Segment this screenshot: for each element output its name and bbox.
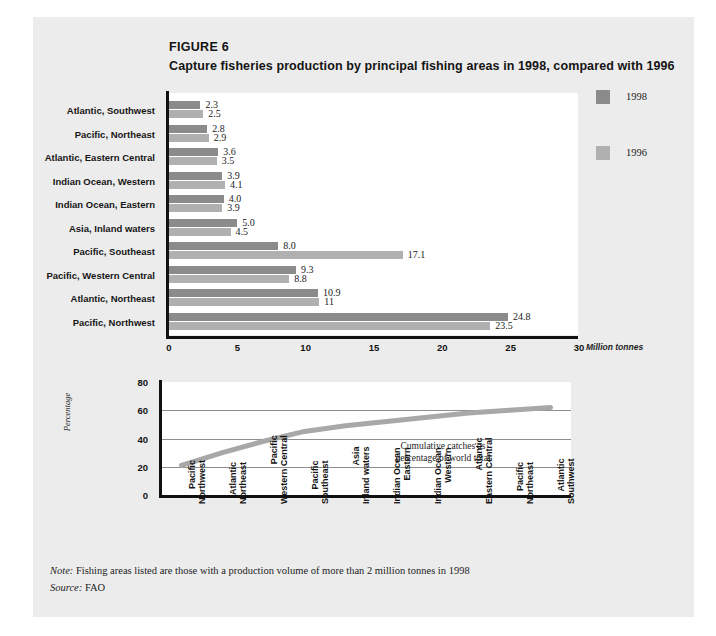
gridline (161, 410, 571, 411)
bar-value-label: 23.5 (495, 320, 513, 331)
bar-category-label: Indian Ocean, Western (53, 176, 155, 187)
bar-1998 (169, 313, 508, 321)
line-y-axis-line (159, 380, 162, 498)
line-x-tick-label: PacificNortheast (515, 462, 535, 504)
bar-category-label: Pacific, Southeast (73, 246, 155, 257)
bar-value-label: 2.9 (214, 132, 227, 143)
legend-swatch-1996 (596, 146, 610, 160)
line-x-tick-label: AtlanticSouthwest (556, 458, 576, 504)
bar-1998 (169, 148, 218, 156)
bar-value-label: 24.8 (513, 311, 531, 322)
line-chart: 020406080 Percentage Cumulative catches … (33, 347, 694, 577)
bar-category-label: Pacific, Northeast (75, 129, 155, 140)
legend-label-1998: 1998 (626, 91, 647, 102)
line-y-tick: 60 (108, 405, 148, 416)
line-y-tick: 40 (108, 433, 148, 444)
bar-value-label: 3.9 (227, 202, 240, 213)
line-x-tick-label: AsiaInland waters (351, 446, 371, 504)
bar-1998 (169, 195, 224, 203)
bar-chart: Atlantic, Southwest2.32.5Pacific, Northe… (33, 17, 694, 347)
bar-category-label: Pacific, Western Central (46, 270, 155, 281)
bar-1996 (169, 228, 231, 236)
line-y-tick: 20 (108, 461, 148, 472)
bar-category-label: Atlantic, Northeast (71, 293, 155, 304)
bar-1998 (169, 101, 200, 109)
figure-panel: FIGURE 6 Capture fisheries production by… (33, 17, 694, 617)
line-y-tick: 0 (108, 490, 148, 501)
line-x-tick-label: Indian OceanEastern (392, 447, 412, 504)
legend-swatch-1998 (596, 90, 610, 104)
note-line: Note: Fishing areas listed are those wit… (50, 562, 670, 579)
note-prefix: Note: (50, 565, 73, 576)
line-x-tick-label: Indian OceanWestern (433, 447, 453, 504)
bar-1996 (169, 134, 209, 142)
line-x-tick-label: PacificNorthwest (187, 460, 207, 504)
bar-1998 (169, 266, 296, 274)
bar-value-label: 17.1 (408, 249, 426, 260)
bar-value-label: 8.0 (283, 240, 296, 251)
source-prefix: Source: (50, 582, 82, 593)
bar-category-label: Atlantic, Southwest (67, 105, 155, 116)
bar-1996 (169, 181, 225, 189)
source-text: FAO (82, 582, 105, 593)
line-x-tick-label: AtlanticEastern Central (474, 437, 494, 504)
bar-1996 (169, 275, 289, 283)
bar-1996 (169, 204, 222, 212)
legend-label-1996: 1996 (626, 147, 647, 158)
line-x-tick-label: PacificWestern Central (269, 435, 289, 504)
bar-1996 (169, 251, 403, 259)
bar-1998 (169, 219, 237, 227)
note-text: Fishing areas listed are those with a pr… (73, 565, 469, 576)
bar-1998 (169, 289, 318, 297)
bar-x-axis-line (166, 336, 578, 339)
bar-1996 (169, 157, 217, 165)
bar-category-label: Indian Ocean, Eastern (55, 199, 155, 210)
bar-value-label: 4.1 (230, 179, 243, 190)
bar-value-label: 3.5 (222, 155, 235, 166)
bar-1996 (169, 322, 490, 330)
line-x-tick-label: AtlanticNortheast (228, 462, 248, 504)
bar-1998 (169, 125, 207, 133)
bar-category-label: Pacific, Northwest (73, 317, 155, 328)
bar-category-label: Asia, Inland waters (69, 223, 155, 234)
footnotes: Note: Fishing areas listed are those wit… (50, 562, 670, 596)
bar-1996 (169, 110, 203, 118)
line-x-tick-label: PacificSoutheast (310, 460, 330, 504)
bar-value-label: 11 (324, 296, 334, 307)
bar-1996 (169, 298, 319, 306)
line-y-axis-label: Percentage (62, 372, 72, 452)
source-line: Source: FAO (50, 579, 670, 596)
bar-category-label: Atlantic, Eastern Central (45, 152, 155, 163)
bar-1998 (169, 172, 222, 180)
bar-value-label: 4.5 (236, 226, 249, 237)
line-y-tick: 80 (108, 377, 148, 388)
bar-value-label: 8.8 (294, 273, 307, 284)
bar-1998 (169, 242, 278, 250)
bar-value-label: 2.5 (208, 108, 221, 119)
